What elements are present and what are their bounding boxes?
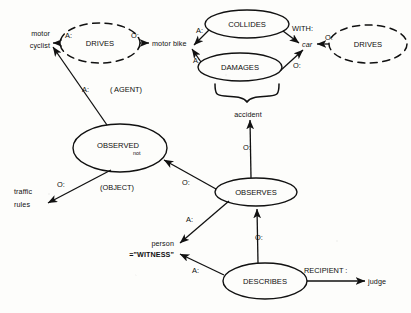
diagram-vector-layer [0, 0, 411, 313]
arc-label-drives-right-object: O: [325, 33, 333, 42]
arc-describes-to-person [180, 254, 224, 275]
concept-witness-value: ="WITNESS" [129, 250, 174, 259]
arc-label-observes-observed: O: [182, 178, 190, 187]
arc-label-damages-object: O: [293, 61, 301, 70]
arc-label-collides-agent: A: [196, 26, 203, 35]
arc-label-describes-agent: A: [192, 266, 199, 275]
relation-label-observes: OBSERVES [235, 188, 277, 197]
arc-label-collides-with: WITH: [292, 24, 313, 33]
arc-label-describes-recipient: RECIPIENT : [304, 266, 347, 275]
arc-label-drives-agent: A: [65, 31, 72, 40]
relation-label-observed: OBSERVED [97, 141, 139, 150]
concept-traffic-rules-line2: rules [14, 200, 30, 209]
concept-motor-cyclist-line1: motor [31, 29, 50, 38]
arc-label-observed-agent: A: [82, 85, 89, 94]
concept-motor-bike: motor bike [152, 39, 187, 48]
relation-label-drives-right: DRIVES [354, 40, 382, 49]
arc-label-describes-object: O: [255, 233, 263, 242]
concept-motor-cyclist-line2: cyclist [30, 41, 50, 50]
concept-judge: judge [368, 277, 386, 286]
relation-label-drives-left: DRIVES [86, 39, 114, 48]
diagram-canvas: DRIVES COLLIDES DAMAGES DRIVES OBSERVED … [0, 0, 411, 313]
arc-label-observes-accident: O: [243, 143, 251, 152]
concept-person: person [151, 239, 174, 248]
concept-traffic-rules-line1: traffic [14, 187, 32, 196]
grouping-brace [215, 84, 279, 102]
arc-label-observes-agent: A: [186, 215, 193, 224]
arc-label-drives-object: O: [131, 31, 139, 40]
arc-observed-to-motor-cyclist [53, 47, 107, 125]
concept-car: car [302, 40, 312, 49]
relation-label-describes: DESCRIBES [243, 277, 287, 286]
relation-label-observed-negation: not [133, 150, 141, 156]
arc-observes-to-observed [164, 160, 216, 189]
arc-label-damages-agent: A: [193, 56, 200, 65]
arc-label-agent-note: ( AGENT) [110, 85, 142, 94]
concept-accident: accident [234, 110, 262, 119]
arc-label-object-note: (OBJECT) [100, 183, 134, 192]
relation-label-damages: DAMAGES [221, 63, 259, 72]
relation-label-collides: COLLIDES [228, 20, 266, 29]
arc-label-observed-object: O: [57, 180, 65, 189]
